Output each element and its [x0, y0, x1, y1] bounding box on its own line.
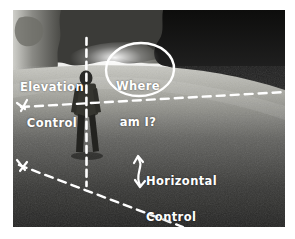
annotated-photo-page: Elevation Control Where am I? Horizontal… [0, 0, 295, 239]
photo-canvas [13, 10, 285, 227]
photograph [13, 10, 285, 227]
grass-texture [13, 66, 285, 227]
